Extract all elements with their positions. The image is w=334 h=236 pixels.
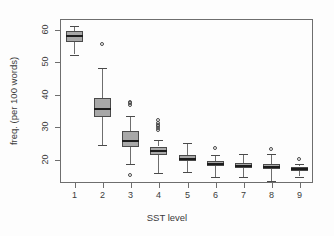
lower-whisker-line bbox=[187, 161, 188, 172]
x-axis-tick-label: 1 bbox=[65, 191, 85, 200]
lower-whisker-cap bbox=[98, 145, 107, 146]
x-axis-tick bbox=[75, 183, 76, 188]
y-axis-tick-label: 30 bbox=[41, 117, 50, 135]
x-axis-tick bbox=[131, 183, 132, 188]
outlier-point bbox=[269, 147, 273, 151]
upper-whisker-line bbox=[243, 154, 244, 163]
upper-whisker-cap bbox=[239, 154, 248, 155]
lower-whisker-line bbox=[102, 117, 103, 145]
median-line bbox=[66, 35, 83, 37]
upper-whisker-line bbox=[130, 116, 131, 131]
x-axis-tick bbox=[272, 183, 273, 188]
y-axis-title: freq. (per 100 words) bbox=[9, 26, 19, 176]
lower-whisker-line bbox=[243, 168, 244, 177]
x-axis-tick bbox=[300, 183, 301, 188]
x-axis-tick-label: 6 bbox=[206, 191, 226, 200]
upper-whisker-cap bbox=[70, 26, 79, 27]
median-line bbox=[94, 108, 111, 110]
y-axis-tick bbox=[55, 127, 60, 128]
lower-whisker-cap bbox=[183, 172, 192, 173]
x-axis-tick bbox=[216, 183, 217, 188]
lower-whisker-cap bbox=[70, 55, 79, 56]
lower-whisker-cap bbox=[211, 177, 220, 178]
outlier-point bbox=[128, 173, 132, 177]
upper-whisker-cap bbox=[154, 140, 163, 141]
lower-whisker-cap bbox=[295, 177, 304, 178]
y-axis-tick-label: 40 bbox=[41, 85, 50, 103]
x-axis-tick-label: 4 bbox=[149, 191, 169, 200]
x-axis-tick-label: 8 bbox=[262, 191, 282, 200]
upper-whisker-cap bbox=[211, 155, 220, 156]
y-axis-tick-label: 50 bbox=[41, 52, 50, 70]
y-axis-tick-label: 20 bbox=[41, 150, 50, 168]
lower-whisker-cap bbox=[154, 173, 163, 174]
x-axis-tick-label: 2 bbox=[93, 191, 113, 200]
outlier-point bbox=[297, 157, 301, 161]
median-line bbox=[122, 140, 139, 142]
lower-whisker-cap bbox=[126, 164, 135, 165]
lower-whisker-cap bbox=[267, 181, 276, 182]
lower-whisker-line bbox=[158, 155, 159, 173]
median-line bbox=[291, 168, 308, 170]
lower-whisker-line bbox=[271, 169, 272, 181]
median-line bbox=[207, 163, 224, 165]
x-axis-tick-label: 5 bbox=[178, 191, 198, 200]
y-axis-tick bbox=[55, 160, 60, 161]
outlier-point bbox=[213, 146, 217, 150]
median-line bbox=[179, 158, 196, 160]
lower-whisker-cap bbox=[239, 177, 248, 178]
upper-whisker-cap bbox=[267, 154, 276, 155]
upper-whisker-cap bbox=[126, 116, 135, 117]
boxplot-figure: 2030405060 123456789 SST level freq. (pe… bbox=[0, 0, 334, 236]
outlier-point bbox=[100, 42, 104, 46]
upper-whisker-line bbox=[187, 143, 188, 155]
y-axis-tick bbox=[55, 30, 60, 31]
lower-whisker-line bbox=[215, 166, 216, 177]
x-axis-tick bbox=[103, 183, 104, 188]
y-axis-tick bbox=[55, 62, 60, 63]
x-axis-tick bbox=[244, 183, 245, 188]
upper-whisker-cap bbox=[98, 68, 107, 69]
lower-whisker-line bbox=[130, 147, 131, 164]
outlier-point bbox=[128, 100, 132, 104]
median-line bbox=[150, 150, 167, 152]
x-axis-title: SST level bbox=[0, 213, 334, 223]
x-axis-tick bbox=[188, 183, 189, 188]
upper-whisker-line bbox=[271, 154, 272, 164]
upper-whisker-cap bbox=[183, 143, 192, 144]
box-iqr-rect bbox=[122, 131, 139, 147]
x-axis-tick-label: 7 bbox=[234, 191, 254, 200]
y-axis-tick-label: 60 bbox=[41, 20, 50, 38]
upper-whisker-line bbox=[102, 68, 103, 99]
x-axis-tick-label: 9 bbox=[290, 191, 310, 200]
x-axis-tick bbox=[159, 183, 160, 188]
median-line bbox=[263, 166, 280, 168]
outlier-point bbox=[156, 118, 160, 122]
lower-whisker-line bbox=[74, 42, 75, 54]
median-line bbox=[235, 165, 252, 167]
x-axis-tick-label: 3 bbox=[121, 191, 141, 200]
upper-whisker-cap bbox=[295, 164, 304, 165]
y-axis-tick bbox=[55, 95, 60, 96]
